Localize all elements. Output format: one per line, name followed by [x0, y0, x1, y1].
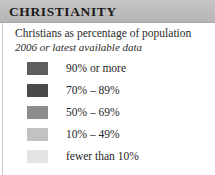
legend-item-label: 90% or more: [66, 62, 126, 75]
left-margin-rule: [2, 23, 3, 175]
legend-color-swatch: [27, 128, 48, 141]
legend-item-label: 10% – 49%: [66, 128, 120, 141]
legend-title-bar: CHRISTIANITY: [0, 0, 215, 23]
map-legend-card: CHRISTIANITY Christians as percentage of…: [0, 0, 215, 175]
legend-color-swatch: [27, 150, 48, 163]
legend-item-list: 90% or more 70% – 89% 50% – 69% 10% – 49…: [27, 57, 212, 167]
legend-item-label: 50% – 69%: [66, 106, 120, 119]
subtitle-primary: Christians as percentage of population: [15, 26, 211, 40]
legend-color-swatch: [27, 84, 48, 97]
legend-item-label: fewer than 10%: [66, 150, 139, 163]
legend-color-swatch: [27, 106, 48, 119]
legend-item-label: 70% – 89%: [66, 84, 120, 97]
legend-color-swatch: [27, 62, 48, 75]
legend-item: fewer than 10%: [27, 145, 212, 167]
legend-item: 50% – 69%: [27, 101, 212, 123]
legend-subtitle-block: Christians as percentage of population 2…: [15, 26, 211, 54]
legend-item: 70% – 89%: [27, 79, 212, 101]
legend-item: 10% – 49%: [27, 123, 212, 145]
page-title: CHRISTIANITY: [9, 3, 117, 20]
subtitle-secondary: 2006 or latest available data: [15, 40, 211, 54]
legend-item: 90% or more: [27, 57, 212, 79]
